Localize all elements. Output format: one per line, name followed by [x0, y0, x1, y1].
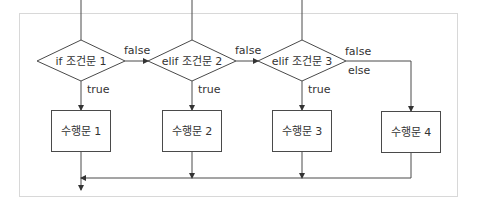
- false-label-1: false: [124, 44, 150, 57]
- true-label-2: true: [198, 83, 221, 96]
- false-label-3: false: [345, 45, 371, 58]
- statement-label-3: 수행문 3: [282, 125, 323, 138]
- statement-label-2: 수행문 2: [172, 125, 213, 138]
- statement-box-4: 수행문 4: [382, 112, 441, 153]
- condition-diamond-2: elif 조건문 2: [148, 40, 236, 81]
- condition-label-3: elif 조건문 3: [272, 55, 333, 68]
- statement-box-3: 수행문 3: [273, 111, 332, 152]
- condition-diamond-1: if 조건문 1: [37, 40, 125, 81]
- statement-label-1: 수행문 1: [61, 125, 102, 138]
- merge-from-4: [302, 152, 411, 178]
- true-label-3: true: [308, 83, 331, 96]
- condition-diamond-3: elif 조건문 3: [258, 40, 346, 81]
- flowchart-canvas: if 조건문 1 elif 조건문 2 elif 조건문 3 false fal…: [0, 0, 478, 222]
- else-label: else: [348, 64, 371, 77]
- true-label-1: true: [87, 83, 110, 96]
- diagram-frame: [20, 14, 458, 197]
- condition-label-1: if 조건문 1: [56, 55, 107, 68]
- statement-label-4: 수행문 4: [391, 126, 432, 139]
- statement-box-1: 수행문 1: [52, 111, 111, 152]
- false-label-2: false: [235, 44, 261, 57]
- condition-label-2: elif 조건문 2: [162, 55, 223, 68]
- statement-box-2: 수행문 2: [163, 111, 222, 152]
